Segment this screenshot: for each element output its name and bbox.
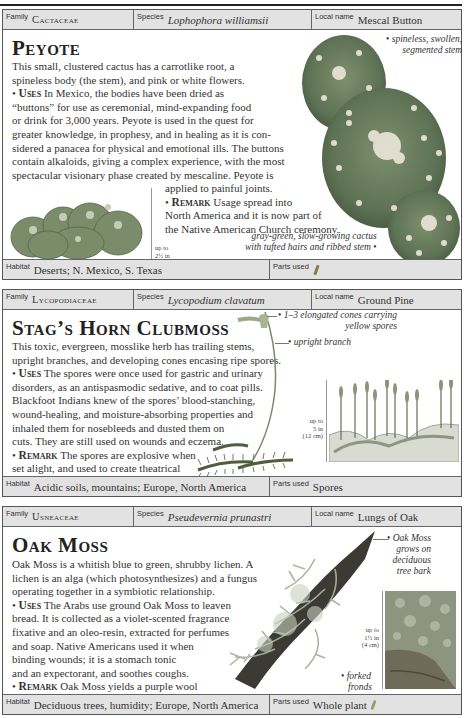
species-cell: Species Pseudevernia prunastri (134, 507, 312, 526)
family-label: Family (6, 12, 28, 21)
uses-line: • Uses In Mexico, the bodies have been d… (12, 87, 284, 101)
entry-stags-horn-clubmoss: Family Lycopodiaceae Species Lycopodium … (2, 289, 462, 497)
habitat-cell: Habitat Acidic soils, mountains; Europe,… (3, 477, 270, 496)
family-cell: Family Lycopodiaceae (3, 290, 134, 309)
uses-line: greater knowledge, in prophesy, and in h… (12, 128, 284, 142)
local-name-cell: Local name Ground Pine (312, 290, 461, 309)
habitat-value: Deciduous trees, humidity; Europe, North… (34, 699, 259, 711)
scale-label: up to 1½ in (4 cm) (355, 626, 379, 649)
entry-footer: Habitat Acidic soils, mountains; Europe,… (3, 476, 461, 496)
family-cell: Family Cactaceae (3, 10, 134, 29)
species-value: Lycopodium clavatum (168, 294, 265, 306)
scale-label: up to 5 in (12 cm) (299, 417, 323, 440)
parts-used-label: Parts used (273, 479, 309, 488)
uses-label: Uses (19, 87, 42, 99)
habitat-label: Habitat (6, 479, 30, 488)
parts-used-value: Spores (313, 481, 343, 493)
uses-line: “buttons” for use as ceremonial, mind-ex… (12, 101, 284, 115)
family-label: Family (6, 292, 28, 301)
entry-header: Family Cactaceae Species Lophophora will… (3, 10, 461, 30)
local-name-cell: Local name Lungs of Oak (312, 507, 461, 526)
remark-label: Remark (172, 196, 211, 208)
root-icon (313, 264, 319, 274)
clubmoss-branch-illustration (193, 310, 303, 478)
family-label: Family (6, 509, 28, 518)
local-name-label: Local name (315, 12, 354, 21)
habitat-value: Acidic soils, mountains; Europe, North A… (34, 481, 246, 493)
family-cell: Family Usneaceae (3, 507, 134, 526)
habitat-cell: Habitat Deciduous trees, humidity; Europ… (3, 695, 270, 714)
top-rule (0, 4, 462, 6)
scale-bar (151, 188, 152, 268)
entry-title: Peyote (12, 36, 80, 61)
uses-label: Uses (19, 367, 42, 379)
species-label: Species (137, 509, 164, 518)
clubmoss-plant-illustration (329, 380, 459, 462)
uses-line: contain alkaloids, giving a complex expe… (12, 155, 284, 169)
annotation-cones: • 1–3 elongated cones carrying yellow sp… (278, 310, 397, 332)
family-value: Usneaceae (32, 511, 79, 522)
description-line: spineless body (the stem), and pink or w… (12, 74, 284, 88)
local-name-label: Local name (315, 509, 354, 518)
habitat-value: Deserts; N. Mexico, S. Texas (34, 264, 162, 276)
scale-bar (382, 591, 383, 689)
parts-used-label: Parts used (273, 262, 309, 271)
entry-header: Family Usneaceae Species Pseudevernia pr… (3, 507, 461, 527)
leader-line (275, 343, 289, 344)
entry-header: Family Lycopodiaceae Species Lycopodium … (3, 290, 461, 310)
annotation-upright-branch: • upright branch (288, 337, 351, 348)
annotation-grows-on-bark: • Oak Moss grows on deciduous tree bark (387, 533, 431, 577)
species-value: Lophophora williamsii (168, 14, 269, 26)
species-cell: Species Lophophora williamsii (134, 10, 312, 29)
oak-moss-bark-piece-illustration (385, 591, 456, 689)
parts-used-cell: Parts used Spores (270, 477, 461, 496)
uses-line: spectacular visionary phase created by m… (12, 169, 284, 183)
local-name-value: Ground Pine (358, 294, 414, 306)
entry-title: Oak Moss (12, 533, 108, 558)
parts-used-label: Parts used (273, 697, 309, 706)
oak-moss-bark-illustration (215, 529, 383, 694)
species-label: Species (137, 12, 164, 21)
uses-line: sidered a panacea for physical and emoti… (12, 142, 284, 156)
peyote-cluster-illustration (8, 195, 150, 261)
remark-label: Remark (19, 680, 58, 692)
habitat-label: Habitat (6, 262, 30, 271)
family-value: Lycopodiaceae (32, 294, 97, 305)
uses-label: Uses (19, 599, 42, 611)
annotation-stem: • spineless, swollen, segmented stem (386, 34, 462, 56)
parts-used-cell: Parts used Whole plant (270, 695, 461, 714)
habitat-label: Habitat (6, 697, 30, 706)
local-name-value: Mescal Button (358, 14, 422, 26)
remark-label: Remark (19, 449, 58, 461)
family-value: Cactaceae (32, 14, 78, 25)
entry-body: This small, clustered cactus has a carro… (12, 60, 284, 182)
entry-footer: Habitat Deciduous trees, humidity; Europ… (3, 694, 461, 714)
local-name-cell: Local name Mescal Button (312, 10, 461, 29)
scale-bar (326, 380, 327, 462)
parts-used-value: Whole plant (313, 699, 367, 711)
local-name-value: Lungs of Oak (358, 511, 419, 523)
parts-used-cell: Parts used (270, 260, 461, 279)
species-cell: Species Lycopodium clavatum (134, 290, 312, 309)
leader-line (267, 316, 277, 317)
uses-line: or drink for 3,000 years. Peyote is used… (12, 114, 284, 128)
description-line: This small, clustered cactus has a carro… (12, 60, 284, 74)
annotation-forked-fronds: • forked fronds (341, 671, 372, 693)
local-name-label: Local name (315, 292, 354, 301)
species-value: Pseudevernia prunastri (168, 511, 272, 523)
species-label: Species (137, 292, 164, 301)
annotation-cactus: gray-green, slow-growing cactus with tuf… (245, 231, 377, 253)
entry-peyote: Family Cactaceae Species Lophophora will… (2, 9, 462, 280)
habitat-cell: Habitat Deserts; N. Mexico, S. Texas (3, 260, 270, 279)
entry-oak-moss: Family Usneaceae Species Pseudevernia pr… (2, 506, 462, 715)
leaf-icon (370, 699, 376, 709)
entry-footer: Habitat Deserts; N. Mexico, S. Texas Par… (3, 259, 461, 279)
